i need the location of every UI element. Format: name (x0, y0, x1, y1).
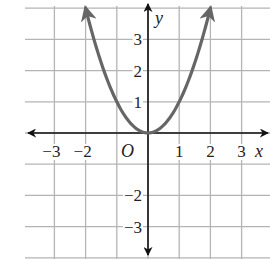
x-tick-label: 3 (237, 142, 246, 161)
y-tick-label: 2 (134, 62, 143, 81)
x-tick-label: 2 (206, 142, 215, 161)
x-tick-label: −3 (42, 142, 60, 161)
y-tick-label: 1 (134, 93, 143, 112)
axes (28, 4, 268, 255)
x-tick-label: −2 (74, 142, 92, 161)
x-axis-label: x (254, 141, 263, 161)
origin-label: O (121, 141, 134, 161)
x-tick-label: 1 (175, 142, 184, 161)
coordinate-plane: −3−2123321−2−3 x y O (0, 0, 270, 259)
y-tick-label: 3 (134, 30, 143, 49)
y-axis-label: y (153, 8, 163, 28)
y-tick-label: −3 (124, 218, 142, 237)
y-tick-label: −2 (124, 186, 142, 205)
